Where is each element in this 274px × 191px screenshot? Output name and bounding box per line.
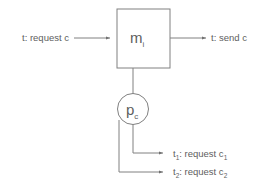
branch-2-subscript-2: 2	[224, 172, 228, 179]
branch-1-label: t1: request c1	[173, 149, 227, 161]
branch-1-line	[133, 125, 163, 154]
diagram-canvas: mi pc t: request c t: send c t1: request…	[0, 0, 274, 191]
output-label: t: send c	[211, 33, 247, 43]
port-label: pc	[126, 102, 138, 121]
module-label-base: m	[130, 29, 143, 46]
module-label-subscript: i	[143, 40, 145, 49]
branch-1-mid: : request c	[179, 148, 223, 159]
branch-2-line	[119, 120, 163, 172]
branch-1-subscript-2: 1	[224, 154, 228, 161]
module-label: mi	[130, 30, 144, 49]
branch-2-label: t2: request c2	[173, 167, 227, 179]
input-label: t: request c	[22, 33, 69, 43]
branch-2-mid: : request c	[179, 166, 223, 177]
port-label-subscript: c	[134, 112, 138, 121]
